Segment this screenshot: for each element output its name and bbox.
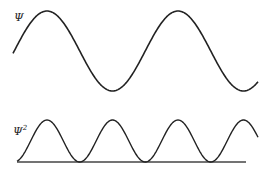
psi-squared-base: Ψ <box>13 125 23 138</box>
wave-diagram <box>0 0 273 174</box>
psi-squared-label: Ψ2 <box>13 125 27 137</box>
psi-squared-exponent: 2 <box>23 124 27 132</box>
psi-label: Ψ <box>14 12 24 23</box>
psi-curve <box>13 11 258 91</box>
psi-squared-curve <box>17 120 258 162</box>
